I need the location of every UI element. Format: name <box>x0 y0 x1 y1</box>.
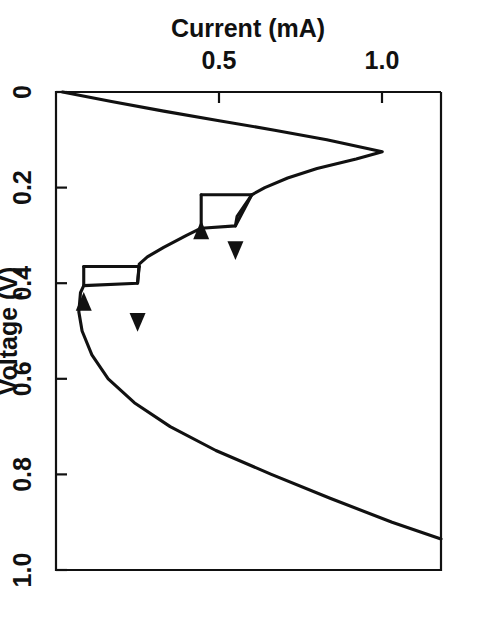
direction-arrows <box>76 220 244 331</box>
y-axis-tick-labels: 0.5 1.0 <box>202 46 400 74</box>
xticklabel-0.2: 0.2 <box>8 170 36 205</box>
rotated-plot-container: 0 0.2 0.4 0.6 0.8 1.0 Voltage (V) 0.5 1.… <box>0 0 488 632</box>
hysteresis-loops <box>84 195 252 286</box>
x-axis-title: Voltage (V) <box>0 267 22 396</box>
plot-frame <box>56 92 441 570</box>
iv-curve-chart: 0 0.2 0.4 0.6 0.8 1.0 Voltage (V) 0.5 1.… <box>0 0 488 632</box>
figure-panel: 0 0.2 0.4 0.6 0.8 1.0 Voltage (V) 0.5 1.… <box>0 0 488 632</box>
reverse-arrow-upper-branch-icon <box>76 292 92 311</box>
yticklabel-0.5: 0.5 <box>202 46 237 74</box>
y-axis-ticks <box>219 92 382 103</box>
x-axis-ticks <box>56 92 67 570</box>
iv-trace-forward <box>63 92 441 539</box>
xticklabel-1.0: 1.0 <box>8 553 36 588</box>
y-axis-title: Current (mA) <box>171 14 325 42</box>
forward-arrow-upper-branch-icon <box>130 313 146 332</box>
loop-upper-forward <box>138 266 140 283</box>
loop-lower-forward <box>235 195 251 226</box>
xticklabel-0: 0 <box>8 85 36 99</box>
forward-arrow-lower-branch-icon <box>227 241 243 260</box>
yticklabel-1.0: 1.0 <box>365 46 400 74</box>
xticklabel-0.8: 0.8 <box>8 457 36 492</box>
